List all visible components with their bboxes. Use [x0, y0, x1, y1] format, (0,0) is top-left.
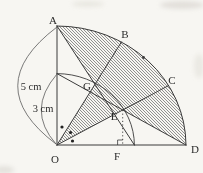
point-label-o: O — [51, 153, 59, 165]
point-label-d: D — [191, 143, 199, 155]
arc-tick-mark — [142, 56, 145, 59]
point-label-b: B — [121, 28, 128, 40]
point-label-f: F — [114, 150, 120, 162]
scanned-page: A B C D O G E F 5 cm 3 cm — [0, 0, 203, 173]
inner-radius-label: 3 cm — [33, 103, 54, 114]
point-label-c: C — [168, 74, 175, 86]
angle-dot-AOB — [60, 125, 63, 128]
angle-dot-COD — [71, 139, 74, 142]
point-label-a: A — [49, 14, 57, 26]
point-label-g: G — [83, 80, 91, 92]
point-label-e: E — [111, 110, 118, 122]
angle-dot-BOC — [69, 131, 72, 134]
geometry-figure: A B C D O G E F 5 cm 3 cm — [0, 0, 203, 173]
outer-radius-label: 5 cm — [21, 81, 42, 92]
